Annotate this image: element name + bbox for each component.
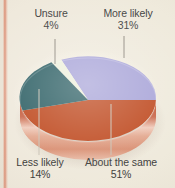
pie-label-less-likely-name: Less likely (16, 156, 63, 168)
pie-label-more-likely: More likely 31% (88, 8, 168, 31)
pie-label-unsure-name: Unsure (34, 7, 67, 19)
pie-label-less-likely-value: 14% (6, 169, 74, 181)
pie-label-about-the-same: About the same 51% (72, 157, 170, 180)
pie-label-about-the-same-value: 51% (72, 169, 170, 181)
pie-label-less-likely: Less likely 14% (6, 157, 74, 180)
pie-label-unsure: Unsure 4% (20, 8, 82, 31)
pie-label-unsure-value: 4% (20, 20, 82, 32)
pie-label-more-likely-name: More likely (103, 7, 152, 19)
pie-chart-figure: Unsure 4% More likely 31% Less likely 14… (0, 0, 175, 188)
pie-label-more-likely-value: 31% (88, 20, 168, 32)
pie-label-about-the-same-name: About the same (85, 156, 157, 168)
